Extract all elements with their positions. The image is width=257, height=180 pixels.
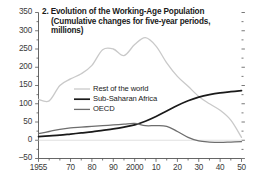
- legend-label-1: Sub-Saharan Africa: [93, 94, 157, 103]
- y-axis-tick-label: 150: [2, 80, 32, 89]
- y-axis-tick-label: 250: [2, 44, 32, 53]
- y-axis-tick-label: 350: [2, 7, 32, 16]
- x-axis-tick-label: 50: [227, 163, 257, 172]
- chart-figure: 2. Evolution of the Working-Age Populati…: [0, 0, 256, 180]
- y-axis-tick-label: 200: [2, 62, 32, 71]
- legend-label-2: OECD: [93, 104, 115, 113]
- series-line-2: [39, 123, 242, 142]
- y-axis-tick-label: 50: [2, 117, 32, 126]
- y-axis-tick-label: 300: [2, 26, 32, 35]
- y-axis-tick-label: 100: [2, 99, 32, 108]
- y-axis-tick-label: –50: [2, 153, 32, 162]
- y-axis-tick-label: 0: [2, 135, 32, 144]
- legend-label-0: Rest of the world: [93, 84, 148, 93]
- x-axis-tick-label: 1955: [24, 163, 54, 172]
